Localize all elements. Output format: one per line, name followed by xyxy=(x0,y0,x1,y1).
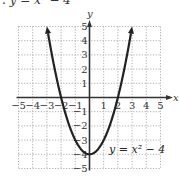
x-tick-label: −4 xyxy=(25,100,40,111)
y-tick-label: −2 xyxy=(73,120,88,131)
x-tick-label: −3 xyxy=(40,100,55,111)
x-tick-label: 5 xyxy=(157,100,163,111)
x-tick-label: −5 xyxy=(11,100,26,111)
y-tick-label: −5 xyxy=(73,163,88,174)
x-axis-label: x xyxy=(173,92,179,103)
y-tick-label: 4 xyxy=(81,35,87,46)
y-tick-label: 2 xyxy=(81,64,87,75)
parabola-graph: −5−4−3−2−11234554321−1−2−3−4−5 x y y = x… xyxy=(0,0,179,179)
y-tick-label: −1 xyxy=(73,106,88,117)
y-tick-label: 3 xyxy=(81,49,87,60)
y-axis-label: y xyxy=(86,8,93,19)
x-tick-label: 4 xyxy=(143,100,149,111)
equation-label: y = x² − 4 xyxy=(108,143,165,156)
y-tick-label: 1 xyxy=(81,78,87,89)
x-tick-label: 3 xyxy=(129,100,135,111)
y-tick-label: 5 xyxy=(81,21,87,32)
x-tick-label: 1 xyxy=(101,100,107,111)
